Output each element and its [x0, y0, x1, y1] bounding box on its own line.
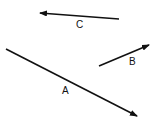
vector-c-label: C — [76, 20, 83, 30]
vector-b-label: B — [129, 57, 136, 67]
vector-b-arrow — [99, 45, 149, 66]
vector-a-label: A — [62, 86, 69, 96]
